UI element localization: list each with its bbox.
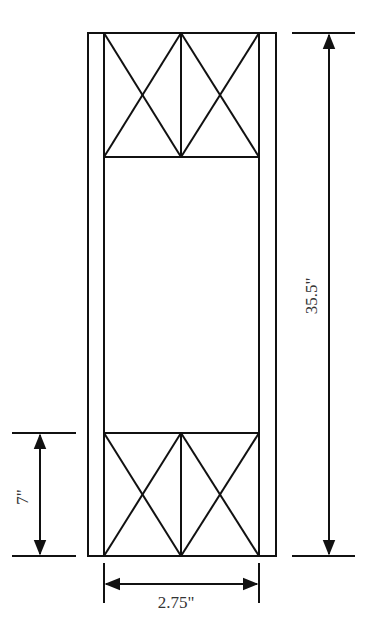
width-dimension-label: 2.75" (158, 593, 195, 612)
panel-height-dimension-label: 7" (13, 489, 32, 504)
frame-diagram: 35.5" 7" 2.75" (0, 0, 374, 624)
top-braced-panel (104, 33, 259, 157)
height-dimension-label: 35.5" (302, 278, 321, 315)
bottom-braced-panel (104, 433, 259, 556)
